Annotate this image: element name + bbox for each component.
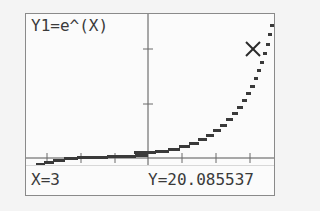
function-expression-label: Y1=e^(X) bbox=[31, 17, 108, 35]
x-value-readout: X=3 bbox=[31, 170, 60, 190]
trace-status-bar: X=3 Y=20.085537 bbox=[26, 165, 274, 195]
status-divider bbox=[26, 165, 274, 166]
y-value-readout: Y=20.085537 bbox=[148, 170, 254, 190]
function-curve bbox=[28, 24, 274, 168]
calculator-screen: Y1=e^(X) X=3 Y=20.085537 bbox=[25, 13, 275, 196]
trace-cursor-crosshair[interactable] bbox=[246, 42, 260, 56]
